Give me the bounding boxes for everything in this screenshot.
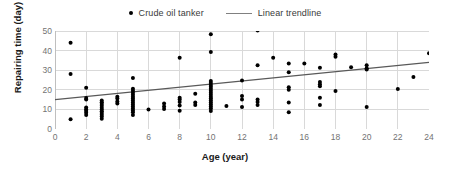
- x-axis-tick-label: 14: [261, 132, 285, 142]
- data-point: [178, 109, 182, 113]
- y-axis-title: Repairing time (day): [12, 0, 23, 103]
- data-point: [84, 86, 88, 90]
- y-axis-tick-label: 30: [30, 65, 52, 75]
- data-point: [115, 102, 119, 106]
- data-point: [131, 76, 135, 80]
- legend-label-crude-oil-tanker: Crude oil tanker: [139, 8, 204, 18]
- data-point: [84, 98, 88, 102]
- y-axis-tick-label: 20: [30, 85, 52, 95]
- data-point: [84, 113, 88, 117]
- data-point: [349, 65, 353, 69]
- data-point: [209, 109, 213, 113]
- data-point: [131, 113, 135, 117]
- line-marker-icon: [226, 13, 252, 14]
- chart-figure: Crude oil tanker Linear trendline Repair…: [0, 0, 450, 171]
- data-point: [256, 103, 260, 107]
- data-point: [147, 107, 151, 111]
- x-axis-tick-labels: 024681012141618202224: [55, 132, 435, 146]
- y-axis-tick-labels: 01020304050: [28, 31, 52, 129]
- x-axis-tick-label: 4: [105, 132, 129, 142]
- data-point: [209, 32, 213, 36]
- data-point: [193, 103, 197, 107]
- data-point: [240, 94, 244, 98]
- data-point: [287, 62, 291, 66]
- x-axis-tick-label: 2: [74, 132, 98, 142]
- x-axis-title: Age (year): [0, 151, 450, 162]
- data-point: [240, 98, 244, 102]
- x-axis-tick-label: 6: [137, 132, 161, 142]
- x-axis-tick-label: 20: [355, 132, 379, 142]
- plot-svg: [55, 31, 429, 129]
- data-point: [396, 87, 400, 91]
- x-axis-tick-label: 12: [230, 132, 254, 142]
- data-point: [224, 104, 228, 108]
- x-axis-tick-label: 16: [292, 132, 316, 142]
- data-point: [318, 66, 322, 70]
- plot-area: [55, 31, 429, 129]
- data-point: [365, 105, 369, 109]
- legend-item-linear-trendline[interactable]: Linear trendline: [226, 8, 322, 18]
- data-point: [178, 103, 182, 107]
- data-point: [69, 41, 73, 45]
- data-point: [178, 100, 182, 104]
- x-axis-tick-label: 0: [43, 132, 67, 142]
- x-axis-tick-label: 24: [417, 132, 441, 142]
- x-axis-tick-label: 18: [324, 132, 348, 142]
- y-axis-tick-label: 40: [30, 46, 52, 56]
- data-point: [427, 51, 429, 55]
- data-point: [69, 72, 73, 76]
- data-point: [365, 68, 369, 72]
- data-point: [178, 56, 182, 60]
- data-point: [287, 88, 291, 92]
- legend-item-crude-oil-tanker[interactable]: Crude oil tanker: [129, 8, 204, 18]
- data-point: [256, 31, 260, 32]
- scatter-marker-icon: [129, 11, 133, 15]
- legend-label-linear-trendline: Linear trendline: [258, 8, 322, 18]
- y-axis-tick-label: 10: [30, 104, 52, 114]
- data-point: [302, 62, 306, 66]
- data-point: [287, 101, 291, 105]
- data-point: [240, 78, 244, 82]
- data-point: [411, 75, 415, 79]
- data-point: [240, 105, 244, 109]
- data-point: [334, 55, 338, 59]
- data-point: [318, 103, 322, 107]
- data-point: [318, 96, 322, 100]
- y-axis-tick-label: 50: [30, 26, 52, 36]
- data-point: [193, 92, 197, 96]
- data-point: [209, 50, 213, 54]
- data-point: [271, 56, 275, 60]
- data-point: [100, 117, 104, 121]
- data-point: [287, 70, 291, 74]
- data-point: [162, 107, 166, 111]
- data-point: [318, 84, 322, 88]
- x-axis-tick-label: 22: [386, 132, 410, 142]
- data-point: [334, 89, 338, 93]
- data-point: [69, 117, 73, 121]
- chart-legend: Crude oil tanker Linear trendline: [0, 4, 450, 22]
- data-point: [256, 63, 260, 67]
- data-point: [287, 110, 291, 114]
- x-axis-tick-label: 10: [199, 132, 223, 142]
- x-axis-tick-label: 8: [168, 132, 192, 142]
